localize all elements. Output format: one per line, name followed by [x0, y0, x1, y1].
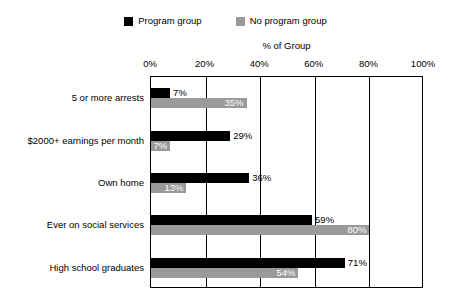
- x-axis-title: % of Group: [150, 40, 423, 51]
- chart-legend: Program group No program group: [0, 16, 451, 26]
- legend-swatch-no-program-icon: [236, 17, 245, 26]
- bar-program-group: [151, 215, 312, 225]
- legend-item-program-group: Program group: [124, 16, 201, 26]
- bar-value-label: 80%: [347, 225, 369, 235]
- x-axis-tick-label: 20%: [195, 58, 214, 69]
- x-axis-tick-label: 60%: [304, 58, 323, 69]
- bar-value-label: 59%: [312, 215, 334, 225]
- bar-value-label: 54%: [276, 268, 298, 278]
- y-axis-category-label: 5 or more arrests: [0, 92, 144, 103]
- y-axis-category-label: Own home: [0, 177, 144, 188]
- bar-row: 54%: [151, 268, 424, 278]
- bar-row: 36%: [151, 173, 424, 183]
- y-axis-category-labels: 5 or more arrests$2000+ earnings per mon…: [0, 76, 144, 288]
- bar-row: 13%: [151, 183, 424, 193]
- bar-program-group: [151, 88, 170, 98]
- x-axis-tick-label: 0%: [143, 58, 157, 69]
- bar-value-label: 7%: [153, 141, 170, 151]
- bar-value-label: 7%: [170, 88, 187, 98]
- bar-value-label: 36%: [249, 173, 271, 183]
- legend-item-no-program-group: No program group: [236, 16, 327, 26]
- y-axis-category-label: High school graduates: [0, 261, 144, 272]
- y-axis-category-label: $2000+ earnings per month: [0, 134, 144, 145]
- y-axis-category-label: Ever on social services: [0, 219, 144, 230]
- bar-series-container: 7%35%29%7%36%13%59%80%71%54%: [151, 77, 422, 287]
- bar-row: 7%: [151, 88, 424, 98]
- bar-value-label: 35%: [225, 98, 247, 108]
- x-axis-tick-labels: 0%20%40%60%80%100%: [150, 58, 423, 70]
- x-axis-tick-label: 40%: [250, 58, 269, 69]
- bar-row: 7%: [151, 141, 424, 151]
- legend-swatch-program-icon: [124, 17, 133, 26]
- legend-label-no-program-group: No program group: [250, 16, 327, 26]
- bar-value-label: 13%: [164, 183, 186, 193]
- plot-area: 7%35%29%7%36%13%59%80%71%54%: [150, 76, 423, 288]
- bar-value-label: 71%: [345, 258, 367, 268]
- bar-value-label: 29%: [230, 131, 252, 141]
- bar-program-group: [151, 258, 345, 268]
- x-axis-tick-label: 100%: [411, 58, 435, 69]
- x-axis-tick-label: 80%: [359, 58, 378, 69]
- bar-row: 80%: [151, 225, 424, 235]
- bar-no-program-group: [151, 225, 369, 235]
- legend-label-program-group: Program group: [138, 16, 201, 26]
- bar-row: 35%: [151, 98, 424, 108]
- bar-row: 59%: [151, 215, 424, 225]
- bar-row: 29%: [151, 131, 424, 141]
